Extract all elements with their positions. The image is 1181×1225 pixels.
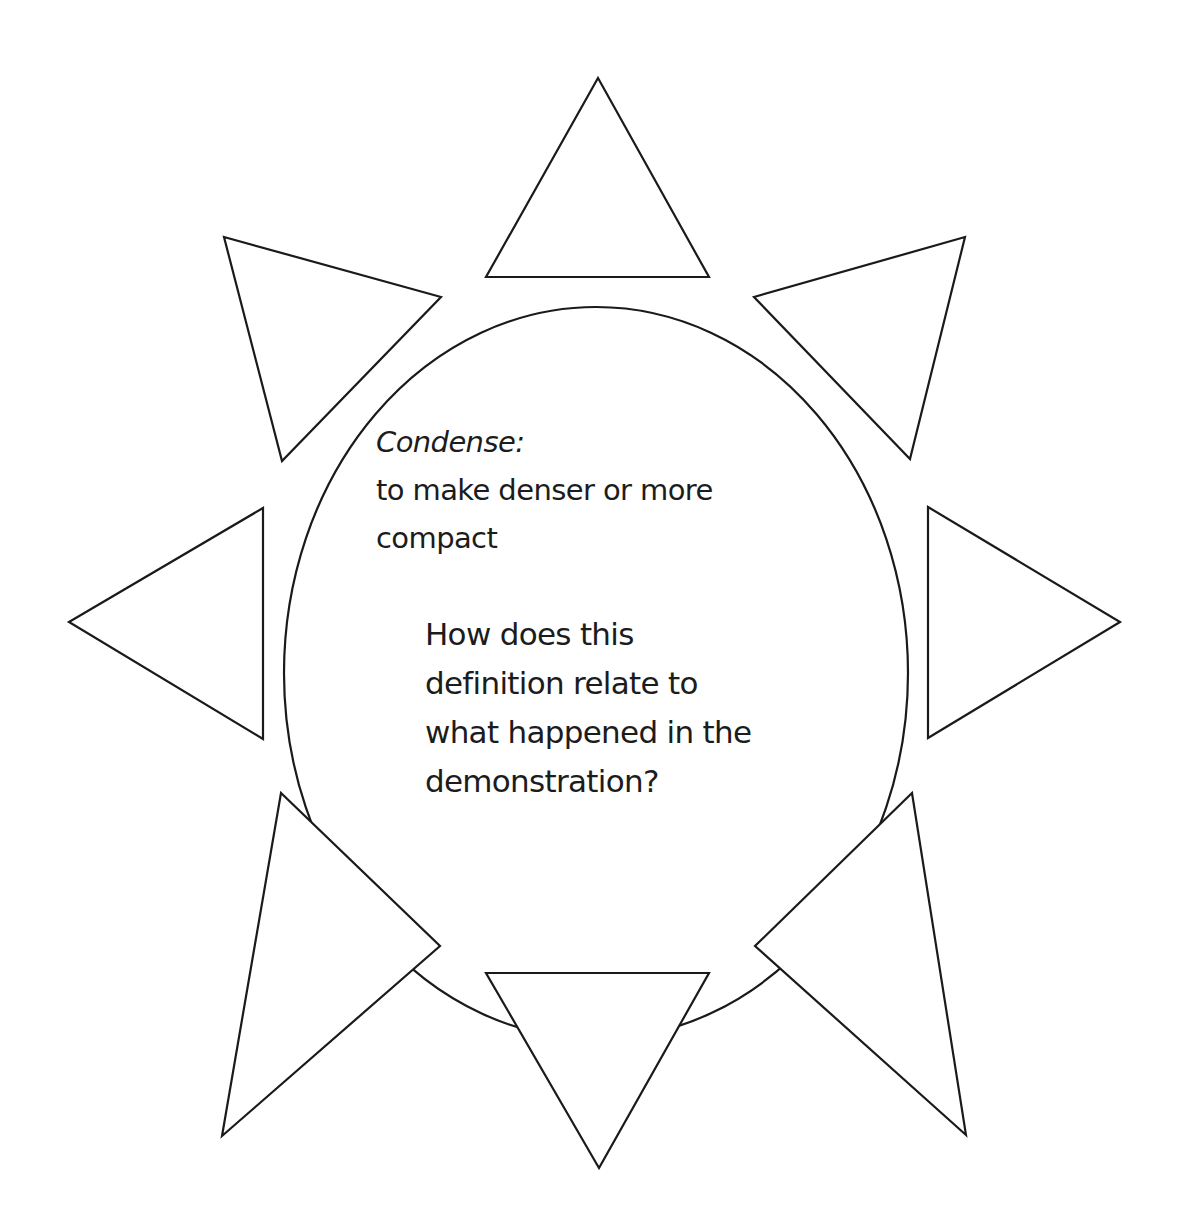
question-line: what happened in the <box>425 708 751 757</box>
ray-triangle-left[interactable] <box>69 508 263 739</box>
reflection-question: How does this definition relate to what … <box>425 610 751 806</box>
vocabulary-term: Condense: <box>376 419 524 466</box>
ray-triangle-top[interactable] <box>486 78 709 277</box>
definition-line: to make denser or more <box>376 466 713 514</box>
question-line: How does this <box>425 610 751 659</box>
question-line: definition relate to <box>425 659 751 708</box>
question-line: demonstration? <box>425 757 751 806</box>
definition-line: compact <box>376 514 713 562</box>
ray-triangle-bottom[interactable] <box>486 973 709 1168</box>
term-definition: to make denser or more compact <box>376 466 713 562</box>
ray-triangle-right[interactable] <box>928 507 1120 738</box>
